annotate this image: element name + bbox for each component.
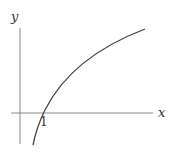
x-axis-label: x [158,105,166,120]
log-graph: y x 1 [0,0,181,156]
log-curve [33,29,145,145]
y-axis-label: y [10,9,19,24]
x-intercept-label: 1 [40,115,48,129]
